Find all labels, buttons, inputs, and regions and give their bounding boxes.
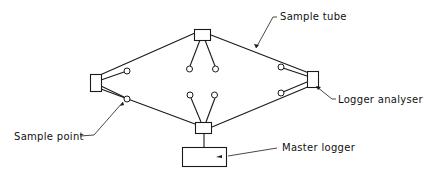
sample-point-icon: [187, 66, 193, 72]
logger-analyser-leader: [317, 87, 336, 99]
left-logger-analyser: [91, 68, 131, 102]
analyser-box: [308, 72, 319, 88]
bottom-logger-analyser: [187, 92, 218, 147]
sample-point-icon: [212, 92, 218, 98]
master-logger-leader: [228, 148, 277, 156]
tube-bottom-left: [101, 89, 195, 124]
sample-tube-leader: [256, 17, 277, 48]
sample-point-icon: [278, 64, 284, 70]
analyser-box: [91, 75, 102, 92]
label-logger-analyser: Logger analyser: [338, 94, 424, 105]
label-sample-tube: Sample tube: [280, 11, 347, 22]
label-master-logger: Master logger: [282, 142, 356, 153]
sample-tube-ring: [100, 33, 310, 127]
tube-left-top: [100, 33, 195, 75]
sampling-network-diagram: Sample tube Logger analyser Sample point…: [0, 0, 431, 178]
analyser-box: [195, 30, 211, 41]
sample-point-leader: [80, 102, 123, 136]
sample-point-icon: [187, 92, 193, 98]
sample-point-icon: [124, 68, 130, 74]
sample-point-icon: [124, 96, 130, 102]
label-sample-point: Sample point: [14, 131, 84, 142]
sample-point-icon: [278, 90, 284, 96]
tube-right-bottom: [212, 86, 310, 127]
analyser-box: [196, 123, 212, 134]
sample-point-icon: [213, 66, 219, 72]
